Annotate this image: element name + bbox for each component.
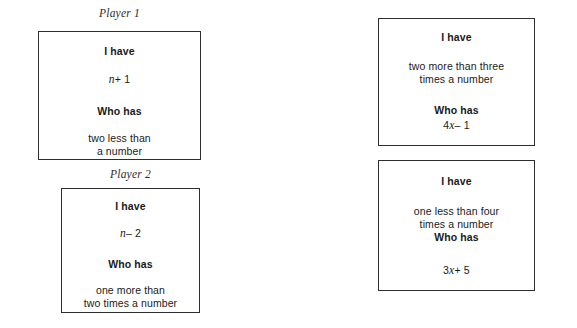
card-r2-i-have-label: I have	[441, 175, 471, 187]
card-p2-who-has-line-1: one more than	[96, 284, 165, 296]
card-r1-expression-rest: – 1	[455, 119, 470, 131]
card-r1-i-have-label: I have	[441, 31, 471, 43]
card-r1-i-have-line-2: times a number	[420, 73, 494, 85]
card-p2-i-have-label: I have	[115, 200, 145, 212]
player-2-label: Player 2	[61, 168, 200, 180]
worksheet-canvas: Player 1 I have n+ 1 Who has two less th…	[0, 0, 577, 328]
card-p1-who-has-label: Who has	[97, 105, 141, 117]
card-p2-who-has-line-2: two times a number	[84, 297, 177, 309]
card-p2-who-has-label: Who has	[108, 258, 152, 270]
card-p2-i-have-expression: n– 2	[120, 227, 141, 241]
right-card-1[interactable]: I have two more than three times a numbe…	[378, 18, 535, 146]
player-2-card[interactable]: I have n– 2 Who has one more than two ti…	[61, 188, 200, 313]
card-p1-who-has-line-2: a number	[97, 145, 142, 157]
card-r1-i-have-line-1: two more than three	[409, 60, 504, 72]
right-card-2[interactable]: I have one less than four times a number…	[378, 160, 535, 291]
card-r2-who-has-expression: 3x+ 5	[443, 264, 470, 278]
card-p1-i-have-label: I have	[104, 45, 134, 57]
card-p1-i-have-expression: n+ 1	[109, 73, 130, 87]
card-r2-i-have-line-1: one less than four	[414, 205, 499, 217]
card-r2-who-has-label: Who has	[434, 231, 478, 243]
player-1-card[interactable]: I have n+ 1 Who has two less than a numb…	[38, 31, 201, 160]
card-p1-expression-rest: + 1	[115, 73, 131, 85]
card-r1-who-has-expression: 4x– 1	[443, 119, 470, 133]
card-r2-expression-rest: + 5	[454, 264, 470, 276]
card-r2-i-have-line-2: times a number	[420, 218, 494, 230]
player-1-label: Player 1	[38, 7, 201, 19]
card-p2-expression-rest: – 2	[126, 227, 141, 239]
card-p1-who-has-line-1: two less than	[88, 132, 151, 144]
card-r1-who-has-label: Who has	[434, 104, 478, 116]
